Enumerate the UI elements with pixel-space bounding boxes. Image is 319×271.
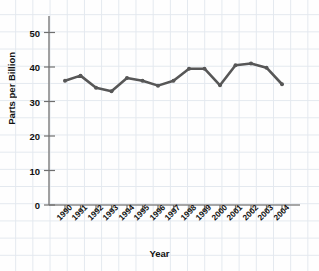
y-tick-label-20: 20 (14, 131, 40, 142)
x-tick-marks (65, 205, 282, 212)
data-point-marker (172, 79, 176, 83)
y-tick-label-50: 50 (14, 27, 40, 38)
data-point-marker (265, 66, 269, 70)
y-tick-label-10: 10 (14, 165, 40, 176)
data-point-marker (110, 89, 114, 93)
chart-page: 50 40 30 20 10 0 19901991199219931994199… (0, 0, 319, 271)
data-point-marker (249, 62, 253, 66)
data-point-marker (187, 67, 191, 71)
data-point-marker (79, 74, 83, 78)
data-point-markers (63, 62, 284, 94)
data-point-marker (125, 76, 129, 80)
data-point-marker (94, 86, 98, 90)
data-point-marker (218, 83, 222, 87)
y-axis-title: Parts per Billion (6, 52, 20, 125)
data-point-marker (141, 79, 145, 83)
data-point-marker (280, 82, 284, 86)
x-axis-title: Year (0, 248, 319, 259)
data-point-marker (156, 84, 160, 88)
data-point-marker (63, 79, 67, 83)
data-point-marker (234, 63, 238, 67)
y-tick-label-0: 0 (14, 200, 40, 211)
data-point-marker (203, 67, 207, 71)
line-chart-plot (0, 0, 319, 271)
